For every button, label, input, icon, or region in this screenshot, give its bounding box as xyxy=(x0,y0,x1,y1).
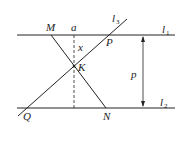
label-l2: l 2 xyxy=(160,96,168,110)
label-K: K xyxy=(77,61,86,73)
line-l3 xyxy=(18,19,127,116)
label-l3: l 3 xyxy=(112,12,120,26)
svg-text:3: 3 xyxy=(116,18,120,26)
distance-arrow-p xyxy=(141,36,145,107)
label-N: N xyxy=(102,110,111,122)
label-l1: l 1 xyxy=(162,23,170,37)
label-a: a xyxy=(71,21,77,33)
svg-text:2: 2 xyxy=(164,102,168,110)
svg-text:1: 1 xyxy=(166,29,170,37)
label-x: x xyxy=(77,41,83,53)
svg-text:l: l xyxy=(162,23,165,35)
geometry-diagram: M a x K P p Q N l 3 l 1 l 2 xyxy=(0,0,185,142)
label-p: p xyxy=(130,68,137,80)
label-M: M xyxy=(45,21,56,33)
label-Q: Q xyxy=(23,110,31,122)
point-K xyxy=(73,65,76,68)
svg-text:l: l xyxy=(160,96,163,108)
svg-text:l: l xyxy=(112,12,115,24)
label-P: P xyxy=(105,36,113,48)
